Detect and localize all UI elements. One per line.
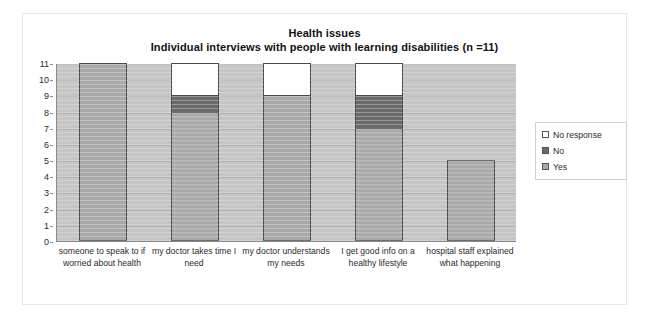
y-axis-tick-mark — [50, 177, 53, 178]
plot-area — [56, 64, 516, 242]
y-axis-tick-label: 7 — [44, 124, 49, 133]
bar-segment-texture — [172, 96, 218, 111]
y-axis-tick-label: 0 — [44, 238, 49, 247]
y-axis-tick-mark — [50, 193, 53, 194]
bar-segment-texture — [448, 161, 494, 240]
y-axis-tick-label: 5 — [44, 157, 49, 166]
chart-subtitle: Individual interviews with people with l… — [23, 40, 626, 55]
y-axis-tick-mark — [50, 226, 53, 227]
x-axis-labels: someone to speak to if worried about hea… — [56, 246, 516, 294]
y-axis-tick-label: 1 — [44, 221, 49, 230]
y-axis-tick-mark — [50, 210, 53, 211]
x-axis-category-label: my doctor takes time I need — [148, 246, 240, 269]
bar-segment-texture — [264, 64, 310, 95]
legend-swatch — [542, 131, 549, 138]
chart-legend: No responseNoYes — [535, 122, 627, 180]
legend-item[interactable]: No response — [542, 129, 622, 140]
y-axis-tick-mark — [50, 113, 53, 114]
bar-segment-texture — [172, 64, 218, 95]
y-axis-tick-mark — [50, 145, 53, 146]
x-axis-category-label: hospital staff explained what happening — [424, 246, 516, 269]
y-axis-tick-label: 4 — [44, 173, 49, 182]
x-axis-category-label: my doctor understands my needs — [240, 246, 332, 269]
legend-item-label: Yes — [553, 162, 567, 172]
x-axis-category-label: I get good info on a healthy lifestyle — [332, 246, 424, 269]
y-axis-tick-label: 3 — [44, 189, 49, 198]
legend-swatch — [542, 163, 549, 170]
y-axis-tick-mark — [50, 64, 53, 65]
legend-item-label: No response — [553, 130, 602, 140]
legend-item[interactable]: Yes — [542, 161, 622, 172]
y-axis-tick-label: 11 — [40, 60, 49, 69]
bar-segment-no[interactable] — [355, 95, 403, 127]
title-block: Health issues Individual interviews with… — [23, 26, 626, 55]
bar-segment-texture — [356, 129, 402, 240]
bar-stack[interactable] — [263, 63, 311, 241]
bar-segment-texture — [172, 113, 218, 240]
y-axis-tick-mark — [50, 80, 53, 81]
chart-title: Health issues — [23, 26, 626, 40]
bar-stack[interactable] — [79, 63, 127, 241]
bar-segment-texture — [80, 64, 126, 240]
bar-segment-no-response[interactable] — [171, 63, 219, 95]
bar-segment-yes[interactable] — [447, 160, 495, 241]
bar-segment-no[interactable] — [171, 95, 219, 111]
bar-segment-no-response[interactable] — [355, 63, 403, 95]
bar-segment-yes[interactable] — [171, 112, 219, 241]
y-axis-tick-label: 10 — [39, 76, 49, 85]
bar-segment-yes[interactable] — [79, 63, 127, 241]
y-axis-tick-mark — [50, 96, 53, 97]
bar-segment-texture — [356, 96, 402, 127]
x-axis-category-label: someone to speak to if worried about hea… — [56, 246, 148, 269]
y-axis-tick-label: 6 — [44, 140, 49, 149]
y-axis-tick-mark — [50, 129, 53, 130]
bar-segment-no-response[interactable] — [263, 63, 311, 95]
y-axis-tick-mark — [50, 242, 53, 243]
bar-stack[interactable] — [171, 63, 219, 241]
y-axis: 01234567891011 — [23, 64, 53, 242]
legend-item[interactable]: No — [542, 145, 622, 156]
bar-segment-yes[interactable] — [355, 128, 403, 241]
y-axis-tick-mark — [50, 161, 53, 162]
bar-segment-yes[interactable] — [263, 95, 311, 241]
y-axis-tick-label: 2 — [44, 205, 49, 214]
legend-swatch — [542, 147, 549, 154]
bar-segment-texture — [356, 64, 402, 95]
y-axis-tick-label: 9 — [44, 92, 49, 101]
legend-item-label: No — [553, 146, 564, 156]
y-axis-tick-label: 8 — [44, 108, 49, 117]
bar-stack[interactable] — [447, 160, 495, 241]
bar-segment-texture — [264, 96, 310, 240]
bar-stack[interactable] — [355, 63, 403, 241]
chart-frame: Health issues Individual interviews with… — [22, 13, 627, 305]
